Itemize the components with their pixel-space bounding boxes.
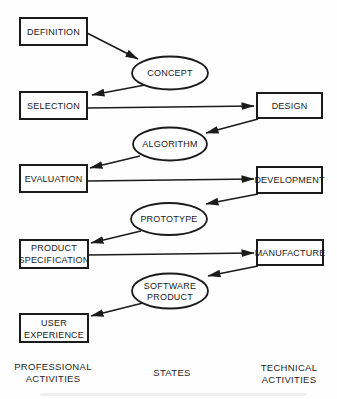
user-experience-label-line1: USER — [41, 318, 67, 328]
software-product-label-line1: SOFTWARE — [144, 281, 196, 291]
states-column: CONCEPT ALGORITHM PROTOTYPE SOFTWARE PRO… — [131, 57, 208, 309]
algorithm-label: ALGORITHM — [142, 139, 197, 149]
selection-label: SELECTION — [27, 101, 80, 111]
design-label: DESIGN — [272, 101, 308, 111]
arrow-evaluation-to-development — [87, 179, 254, 181]
arrow-manufacture-to-software-product — [208, 266, 258, 276]
arrow-concept-to-selection — [92, 85, 145, 95]
evaluation-label: EVALUATION — [25, 174, 83, 184]
footer-professional-line1: PROFESSIONAL — [14, 361, 92, 372]
scan-artifact-band — [40, 393, 307, 396]
user-experience-label-line2: EXPERIENCE — [24, 330, 84, 340]
software-product-ellipse — [132, 274, 208, 309]
product-specification-label-line2: SPECIFICATION — [19, 255, 90, 265]
footer-labels: PROFESSIONAL ACTIVITIES STATES TECHNICAL… — [14, 361, 317, 385]
diagram-canvas: DEFINITION SELECTION EVALUATION PRODUCT … — [0, 0, 337, 399]
arrow-software-product-to-user-experience — [91, 303, 143, 316]
prototype-label: PROTOTYPE — [140, 214, 197, 224]
arrow-design-to-algorithm — [206, 119, 258, 133]
software-product-label-line2: PRODUCT — [147, 292, 193, 302]
footer-professional-line2: ACTIVITIES — [26, 373, 81, 384]
arrow-product-specification-to-manufacture — [88, 253, 254, 255]
process-flow-diagram: DEFINITION SELECTION EVALUATION PRODUCT … — [0, 0, 337, 399]
arrow-development-to-prototype — [206, 194, 258, 204]
professional-activities-column: DEFINITION SELECTION EVALUATION PRODUCT … — [19, 18, 90, 342]
technical-activities-column: DESIGN DEVELOPMENT MANUFACTURE — [254, 93, 325, 265]
footer-technical-line1: TECHNICAL — [261, 362, 318, 373]
arrow-definition-to-concept — [87, 33, 138, 59]
product-specification-label-line1: PRODUCT — [31, 243, 77, 253]
arrow-prototype-to-product-specification — [91, 231, 141, 243]
footer-technical-line2: ACTIVITIES — [262, 374, 317, 385]
concept-label: CONCEPT — [147, 68, 193, 78]
arrow-algorithm-to-evaluation — [90, 156, 140, 168]
development-label: DEVELOPMENT — [254, 175, 325, 185]
arrow-selection-to-design — [87, 106, 254, 108]
footer-states: STATES — [153, 367, 190, 378]
manufacture-label: MANUFACTURE — [255, 248, 326, 258]
definition-label: DEFINITION — [27, 27, 80, 37]
